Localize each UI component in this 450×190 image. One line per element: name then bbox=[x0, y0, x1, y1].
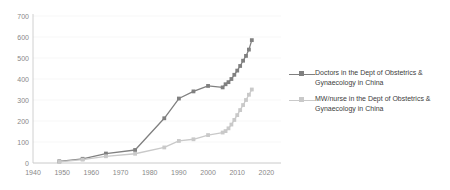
data-point-marker bbox=[244, 54, 248, 58]
series-1 bbox=[57, 88, 253, 164]
data-point-marker bbox=[232, 118, 236, 122]
data-point-marker bbox=[177, 139, 181, 143]
series-line bbox=[59, 90, 252, 162]
y-tick-label: 300 bbox=[17, 97, 29, 104]
x-tick-label: 2000 bbox=[200, 169, 216, 176]
x-tick-label: 1980 bbox=[142, 169, 158, 176]
data-point-marker bbox=[206, 133, 210, 137]
legend-item-doctors: Doctors in the Dept of Obstetrics & Gyna… bbox=[289, 68, 447, 87]
y-tick-label: 500 bbox=[17, 55, 29, 62]
data-point-marker bbox=[238, 108, 242, 112]
y-tick-label: 200 bbox=[17, 118, 29, 125]
data-point-marker bbox=[230, 77, 234, 81]
data-point-marker bbox=[250, 88, 254, 92]
y-tick-label: 0 bbox=[25, 160, 29, 167]
data-point-marker bbox=[206, 84, 210, 88]
x-tick-label: 2010 bbox=[229, 169, 245, 176]
data-point-marker bbox=[241, 59, 245, 63]
legend-marker-doctors-icon bbox=[289, 70, 315, 79]
data-point-marker bbox=[162, 116, 166, 120]
data-point-marker bbox=[230, 123, 234, 127]
data-series-group bbox=[57, 38, 253, 164]
data-point-marker bbox=[247, 48, 251, 52]
data-point-marker bbox=[241, 103, 245, 107]
y-tick-label: 700 bbox=[17, 13, 29, 20]
axes bbox=[33, 14, 281, 163]
data-point-marker bbox=[235, 113, 239, 117]
legend-item-midwife-nurse: MW/nurse in the Dept of Obstetrics & Gyn… bbox=[289, 94, 447, 113]
y-tick-label: 400 bbox=[17, 76, 29, 83]
data-point-marker bbox=[177, 97, 181, 101]
y-tick-label: 600 bbox=[17, 34, 29, 41]
legend-label-midwife-nurse: MW/nurse in the Dept of Obstetrics & Gyn… bbox=[315, 94, 447, 113]
chart-legend: Doctors in the Dept of Obstetrics & Gyna… bbox=[289, 68, 447, 120]
data-point-marker bbox=[244, 98, 248, 102]
data-point-marker bbox=[250, 38, 254, 42]
series-line bbox=[59, 40, 252, 161]
series-0 bbox=[57, 38, 253, 163]
x-tick-label: 1970 bbox=[113, 169, 129, 176]
data-point-marker bbox=[192, 137, 196, 141]
legend-marker-midwife-nurse-icon bbox=[289, 96, 315, 105]
line-chart: 194019501960197019801990200020102020 010… bbox=[0, 0, 450, 190]
x-axis-tick-labels: 194019501960197019801990200020102020 bbox=[25, 169, 274, 176]
data-point-marker bbox=[162, 146, 166, 150]
data-point-marker bbox=[247, 93, 251, 97]
data-point-marker bbox=[235, 69, 239, 73]
data-point-marker bbox=[192, 89, 196, 93]
x-tick-label: 1990 bbox=[171, 169, 187, 176]
legend-label-doctors: Doctors in the Dept of Obstetrics & Gyna… bbox=[315, 68, 447, 87]
data-point-marker bbox=[232, 73, 236, 77]
x-tick-label: 1940 bbox=[25, 169, 41, 176]
x-tick-label: 2020 bbox=[259, 169, 275, 176]
data-point-marker bbox=[238, 64, 242, 68]
x-tick-label: 1960 bbox=[84, 169, 100, 176]
data-point-marker bbox=[81, 158, 85, 162]
y-tick-label: 100 bbox=[17, 139, 29, 146]
data-point-marker bbox=[57, 160, 61, 164]
data-point-marker bbox=[133, 148, 137, 152]
data-point-marker bbox=[227, 126, 231, 130]
x-tick-label: 1950 bbox=[54, 169, 70, 176]
data-point-marker bbox=[133, 152, 137, 156]
data-point-marker bbox=[104, 154, 108, 158]
y-axis-tick-labels: 0100200300400500600700 bbox=[17, 13, 29, 167]
